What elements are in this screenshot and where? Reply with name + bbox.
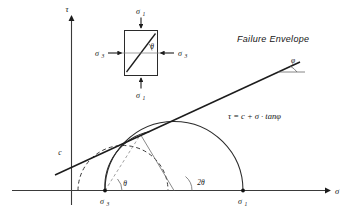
construction-lines-group xyxy=(105,135,174,191)
theta-angle-arc xyxy=(118,179,123,191)
sigma3-axis-label: σ 3 xyxy=(100,197,110,207)
specimen-top-stress-label: σ 1 xyxy=(136,7,146,17)
sigma1-point-marker xyxy=(241,189,245,193)
sigma3-axis-subscript: 3 xyxy=(106,201,110,207)
specimen-top-subscript: 1 xyxy=(143,11,146,17)
specimen-element-group xyxy=(108,18,174,89)
mohr-circles-group xyxy=(78,121,243,190)
failure-equation-label: τ = c + σ · tanφ xyxy=(228,111,281,121)
specimen-right-symbol: σ xyxy=(178,49,183,58)
tau-axis-label: τ xyxy=(65,4,69,14)
mohr-coulomb-diagram: τ σ c φ θ 2θ σ 3 σ 1 σ xyxy=(0,0,351,224)
specimen-left-subscript: 3 xyxy=(101,53,105,59)
radius-to-tangent-point xyxy=(141,135,175,191)
sigma1-axis-symbol: σ xyxy=(238,197,243,206)
sigma1-axis-subscript: 1 xyxy=(245,201,248,207)
specimen-left-symbol: σ xyxy=(95,49,100,58)
specimen-right-stress-label: σ 3 xyxy=(178,49,188,59)
failure-envelope-label: Failure Envelope xyxy=(237,34,309,44)
mohr-coulomb-figure: τ σ c φ θ 2θ σ 3 σ 1 σ xyxy=(0,0,351,224)
specimen-bottom-symbol: σ xyxy=(136,91,141,100)
cohesion-label: c xyxy=(58,148,62,157)
sigma1-axis-label: σ 1 xyxy=(238,197,248,207)
sigma3-axis-symbol: σ xyxy=(100,197,105,206)
phi-angle-arc xyxy=(290,66,297,72)
theta-angle-label: θ xyxy=(123,179,127,188)
two-theta-angle-label: 2θ xyxy=(197,178,205,187)
specimen-right-subscript: 3 xyxy=(184,53,188,59)
angle-arcs-group xyxy=(118,177,193,191)
axes-group xyxy=(12,16,330,205)
specimen-left-stress-label: σ 3 xyxy=(95,49,105,59)
specimen-bottom-stress-label: σ 1 xyxy=(136,91,146,101)
specimen-top-symbol: σ xyxy=(136,7,141,16)
specimen-bottom-subscript: 1 xyxy=(143,95,146,101)
phi-angle-label: φ xyxy=(291,56,295,65)
sigma3-point-marker xyxy=(103,189,107,193)
two-theta-angle-arc xyxy=(186,177,193,191)
specimen-theta-label: θ xyxy=(150,42,154,51)
sigma-axis-label: σ xyxy=(335,186,340,196)
text-labels-group: τ σ c φ θ 2θ σ 3 σ 1 σ xyxy=(58,4,340,207)
